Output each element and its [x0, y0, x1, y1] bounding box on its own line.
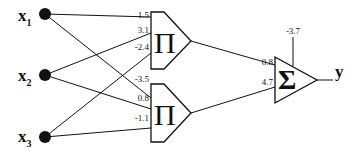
input-node-x2: [39, 69, 51, 81]
product-symbol-2: Π: [154, 98, 176, 131]
edge-x3-p1: [45, 53, 151, 137]
weight-p2-sum: 4.7: [262, 77, 274, 87]
edge-x2-p1: [45, 33, 151, 75]
edge-p2-sum: [191, 87, 275, 113]
weight-p1-sum: 0.8: [262, 57, 274, 67]
edge-x1-p2: [45, 14, 151, 98]
input-label-x2: x2: [18, 66, 32, 88]
weight-x2-p2: 0.8: [138, 93, 150, 103]
weight-x3-p2: -1.1: [135, 113, 149, 123]
pi-sigma-network-diagram: x1 x2 x3 Π Π 1.5 3.1 -2.4 -3.5 0.8 -1.1 …: [0, 0, 359, 151]
bias-label: -3.7: [286, 26, 301, 36]
weight-x1-p2: -3.5: [135, 74, 150, 84]
input-label-x1: x1: [18, 6, 32, 28]
edge-x3-p2: [45, 128, 151, 137]
weight-x1-p1: 1.5: [138, 10, 150, 20]
input-node-x1: [39, 8, 51, 20]
input-node-x3: [39, 131, 51, 143]
sum-symbol: Σ: [278, 64, 296, 95]
weight-x3-p1: -2.4: [135, 42, 150, 52]
edge-x1-p1: [45, 14, 151, 17]
output-label-y: y: [335, 62, 344, 81]
input-label-x3: x3: [18, 127, 32, 149]
weight-x2-p1: 3.1: [138, 25, 149, 35]
product-symbol-1: Π: [154, 26, 176, 59]
